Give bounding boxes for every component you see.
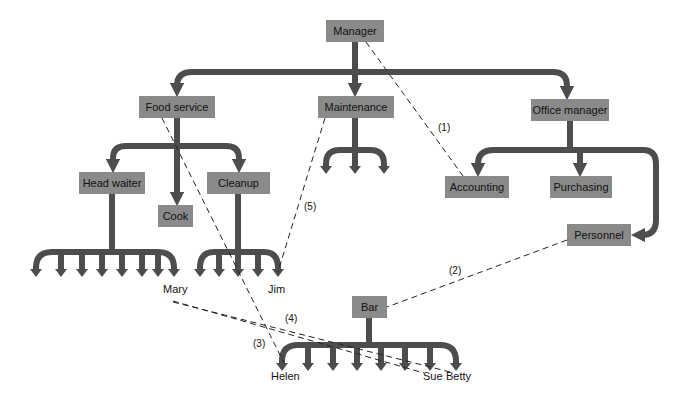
box-label: Maintenance <box>325 101 388 113</box>
link-number-2: (2) <box>449 265 461 276</box>
box-label: Food service <box>146 101 209 113</box>
manager-to-food-service-arrow <box>177 72 355 90</box>
box-label: Bar <box>361 301 378 313</box>
box-label: Office manager <box>532 104 607 116</box>
maintenance-fan-arrows <box>326 150 384 168</box>
link-3-food-service-helen <box>162 118 284 363</box>
link-number-5: (5) <box>304 201 316 212</box>
link-number-3: (3) <box>253 338 265 349</box>
link-2-personnel-bar <box>387 240 567 307</box>
head-waiter-arrowheads <box>30 269 180 277</box>
office-manager-to-accounting-arrow <box>478 150 570 170</box>
box-head-waiter: Head waiter <box>79 172 145 194</box>
manager-to-office-manager-arrow <box>355 72 567 93</box>
org-chart-diagram: ManagerFood serviceMaintenanceOffice man… <box>0 0 697 419</box>
hierarchy-arrows <box>30 42 656 371</box>
box-label: Purchasing <box>553 181 608 193</box>
box-cleanup: Cleanup <box>207 172 270 194</box>
link-4-mary-betty <box>173 302 454 373</box>
box-maintenance: Maintenance <box>318 96 394 118</box>
box-label: Head waiter <box>83 177 142 189</box>
box-label: Cook <box>163 210 189 222</box>
box-accounting: Accounting <box>445 176 509 198</box>
link-5-maintenance-jim <box>278 118 325 272</box>
food-service-to-cleanup-arrow <box>177 146 239 166</box>
box-label: Manager <box>333 25 377 37</box>
box-label: Accounting <box>450 181 504 193</box>
box-personnel: Personnel <box>567 224 631 246</box>
food-service-to-head-waiter-arrow <box>113 146 177 166</box>
person-label-jim: Jim <box>268 283 285 295</box>
box-label: Cleanup <box>218 177 259 189</box>
person-label-helen: Helen <box>271 370 300 382</box>
person-label-mary: Mary <box>163 283 188 295</box>
informal-links <box>162 42 567 373</box>
box-purchasing: Purchasing <box>550 176 612 198</box>
person-label-betty: Betty <box>446 370 472 382</box>
box-office-manager: Office manager <box>531 99 609 121</box>
link-number-1: (1) <box>438 122 450 133</box>
box-label: Personnel <box>574 229 624 241</box>
box-cook: Cook <box>158 205 193 227</box>
link-number-4: (4) <box>285 313 297 324</box>
box-manager: Manager <box>326 20 384 42</box>
box-food-service: Food service <box>139 96 215 118</box>
maintenance-arrowheads <box>320 166 390 174</box>
person-label-sue: Sue <box>423 370 443 382</box>
people-labels: MaryJimHelenSueBetty <box>163 283 472 382</box>
box-bar: Bar <box>352 296 387 318</box>
